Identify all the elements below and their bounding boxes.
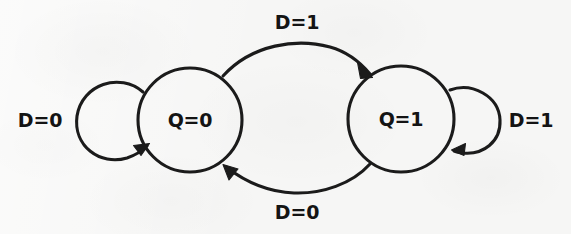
state-diagram-svg: Q=0 Q=1 D=1 D=0 D=0 D=1 bbox=[0, 0, 571, 234]
state-q1-label: Q=1 bbox=[379, 108, 424, 130]
state-q0-label: Q=0 bbox=[168, 109, 213, 131]
transition-label-q0-self: D=0 bbox=[18, 109, 62, 131]
transition-arc-bottom[interactable] bbox=[223, 164, 370, 193]
transition-arc-top[interactable] bbox=[223, 43, 373, 78]
self-loop-q1-path bbox=[450, 88, 500, 153]
transition-arc-top-path bbox=[223, 43, 370, 76]
transition-arc-bottom-path bbox=[226, 164, 370, 193]
transition-arc-bottom-arrowhead bbox=[223, 165, 238, 181]
transition-label-q1-to-q0: D=0 bbox=[275, 201, 319, 223]
self-loop-q1[interactable] bbox=[450, 88, 500, 156]
state-diagram-canvas: Q=0 Q=1 D=1 D=0 D=0 D=1 bbox=[0, 0, 571, 234]
state-node-q0[interactable]: Q=0 bbox=[138, 68, 242, 172]
transition-label-q0-to-q1: D=1 bbox=[275, 11, 319, 33]
transition-label-q1-self: D=1 bbox=[509, 109, 553, 131]
state-node-q1[interactable]: Q=1 bbox=[348, 66, 454, 172]
